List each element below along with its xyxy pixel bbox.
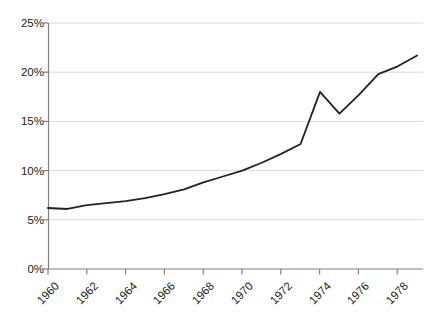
x-tick-label-wrap-1966: 1966: [128, 279, 168, 293]
y-axis-label-0: 0%: [0, 263, 44, 275]
y-axis-label-15: 15%: [0, 115, 44, 127]
x-tick-label-wrap-1968: 1968: [167, 279, 207, 293]
x-tick-label-wrap-1978: 1978: [361, 279, 401, 293]
x-tick-label-wrap-1960: 1960: [12, 279, 52, 293]
x-tick-label-wrap-1970: 1970: [206, 279, 246, 293]
chart-plot-area: [0, 0, 431, 321]
x-tick-label-wrap-1964: 1964: [90, 279, 130, 293]
y-tick-label-wrap-25: 25%: [0, 17, 44, 29]
y-tick-label-wrap-5: 5%: [0, 214, 44, 226]
axes-group: [48, 23, 423, 269]
line-chart: 25% 20% 15% 10% 5% 0% 1960 1962 1964 196…: [0, 0, 431, 321]
y-axis-label-5: 5%: [0, 214, 44, 226]
y-axis-label-10: 10%: [0, 165, 44, 177]
x-tick-label-wrap-1962: 1962: [51, 279, 91, 293]
gridlines-group: [48, 23, 423, 220]
y-axis-label-20: 20%: [0, 66, 44, 78]
y-tick-label-wrap-20: 20%: [0, 66, 44, 78]
y-tick-label-wrap-0: 0%: [0, 263, 44, 275]
x-axis-ticks-group: [48, 269, 397, 275]
x-tick-label-wrap-1972: 1972: [245, 279, 285, 293]
x-tick-label-wrap-1976: 1976: [322, 279, 362, 293]
y-axis-ticks-group: [43, 23, 48, 269]
x-tick-label-wrap-1974: 1974: [284, 279, 324, 293]
data-series-line: [48, 55, 417, 209]
y-tick-label-wrap-15: 15%: [0, 115, 44, 127]
y-tick-label-wrap-10: 10%: [0, 165, 44, 177]
y-axis-label-25: 25%: [0, 17, 44, 29]
